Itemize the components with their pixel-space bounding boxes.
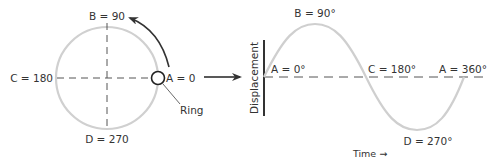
label-d: D = 270 [85, 133, 129, 145]
point-a-end: A = 360° [439, 63, 487, 75]
label-a: A = 0 [166, 72, 195, 84]
ring-leader-line [163, 84, 180, 104]
x-axis-label: Time → [352, 148, 387, 159]
point-d-trough: D = 270° [404, 135, 453, 147]
ring-label: Ring [180, 104, 204, 116]
point-a-start: A = 0° [271, 63, 306, 75]
ring-icon [152, 72, 165, 85]
sine-wave-graph: Displacement A = 0° B = 90° C = 180° A =… [248, 7, 487, 159]
rotation-arrow-icon [130, 18, 169, 67]
point-c-mid: C = 180° [368, 63, 416, 75]
label-c: C = 180 [10, 72, 53, 84]
y-axis-label: Displacement [248, 42, 260, 114]
label-b: B = 90 [89, 10, 125, 22]
point-b-peak: B = 90° [294, 7, 335, 19]
rotation-circle: B = 90 C = 180 A = 0 D = 270 Ring [10, 10, 203, 145]
rotation-to-sine-diagram: B = 90 C = 180 A = 0 D = 270 Ring Displa… [0, 0, 496, 164]
